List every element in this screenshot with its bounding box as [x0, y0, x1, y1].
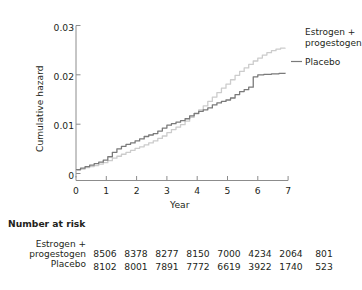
legend-label-estrogen-progestogen: Estrogen + progestogen	[305, 27, 362, 48]
risk-value: 8506	[90, 249, 120, 258]
risk-row-label-placebo: Placebo	[2, 259, 86, 269]
cumulative-hazard-figure: Cumulative hazard 0.03 0.02 0.01 0 0 1 2…	[0, 0, 362, 290]
risk-value: 8102	[90, 262, 120, 271]
risk-table-title: Number at risk	[8, 219, 85, 228]
risk-row-label-estrogen-progestogen: Estrogen + progestogen	[2, 239, 86, 259]
legend-label-placebo: Placebo	[305, 57, 340, 68]
risk-value: 801	[309, 249, 339, 258]
risk-value: 6619	[214, 262, 244, 271]
risk-value: 8150	[183, 249, 213, 258]
curve-placebo	[76, 73, 285, 170]
risk-value: 523	[309, 262, 339, 271]
risk-value: 1740	[276, 262, 306, 271]
risk-value: 3922	[245, 262, 275, 271]
risk-value: 8001	[121, 262, 151, 271]
curve-estrogen-progestogen	[76, 48, 285, 170]
risk-value: 4234	[245, 249, 275, 258]
risk-value: 8378	[121, 249, 151, 258]
risk-value: 7891	[152, 262, 182, 271]
risk-value: 7772	[183, 262, 213, 271]
risk-value: 8277	[152, 249, 182, 258]
risk-value: 2064	[276, 249, 306, 258]
risk-value: 7000	[214, 249, 244, 258]
